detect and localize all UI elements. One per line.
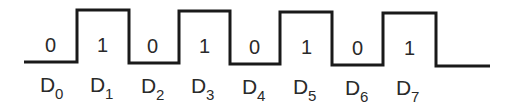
svg-text:D: D xyxy=(191,74,206,97)
svg-text:2: 2 xyxy=(156,86,164,103)
bit-label-d2: D 2 xyxy=(141,74,164,103)
svg-text:3: 3 xyxy=(206,86,214,103)
bit-value-7: 1 xyxy=(404,37,415,59)
bit-value-1: 1 xyxy=(97,34,108,56)
bit-label-d6: D 6 xyxy=(345,76,368,105)
svg-text:D: D xyxy=(141,74,156,97)
bit-value-6: 0 xyxy=(352,37,363,59)
bit-value-2: 0 xyxy=(147,35,158,57)
svg-text:D: D xyxy=(242,75,257,98)
svg-text:D: D xyxy=(396,76,411,99)
svg-text:D: D xyxy=(293,75,308,98)
bit-label-d7: D 7 xyxy=(396,76,419,105)
svg-text:4: 4 xyxy=(257,87,265,104)
bit-label-d3: D 3 xyxy=(191,74,214,103)
svg-text:6: 6 xyxy=(360,88,368,105)
svg-text:0: 0 xyxy=(55,85,63,102)
bit-label-d0: D 0 xyxy=(40,73,63,102)
bit-label-d4: D 4 xyxy=(242,75,265,104)
bit-value-4: 0 xyxy=(249,36,260,58)
svg-text:D: D xyxy=(345,76,360,99)
svg-text:1: 1 xyxy=(105,85,113,102)
bit-label-d1: D 1 xyxy=(90,73,113,102)
svg-text:D: D xyxy=(90,73,105,96)
waveform-diagram: 0 1 0 1 0 1 0 1 D 0 D 1 D 2 D 3 D 4 D 5 … xyxy=(0,0,509,106)
bit-value-5: 1 xyxy=(301,36,312,58)
bit-value-3: 1 xyxy=(199,35,210,57)
svg-text:D: D xyxy=(40,73,55,96)
bit-value-0: 0 xyxy=(45,34,56,56)
svg-text:7: 7 xyxy=(411,88,419,105)
bit-label-d5: D 5 xyxy=(293,75,316,104)
svg-text:5: 5 xyxy=(308,87,316,104)
